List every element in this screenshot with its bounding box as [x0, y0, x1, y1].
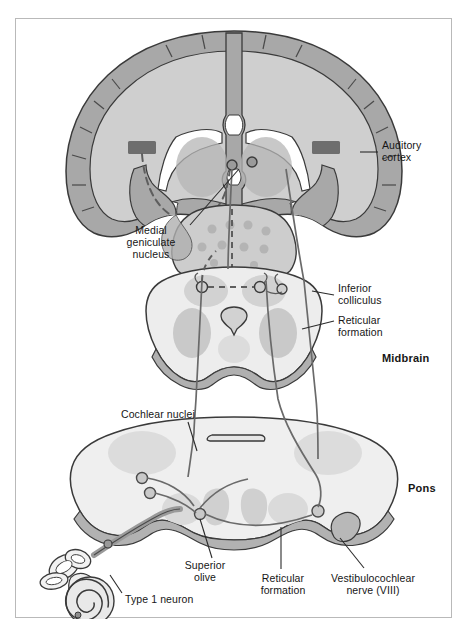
midbrain-section: [146, 251, 322, 390]
label-medial-geniculate-nucleus: Medial geniculate nucleus: [112, 224, 190, 261]
inner-ear: [39, 546, 114, 619]
auditory-cortex-patch-left: [128, 141, 156, 154]
cochlear-nuclei-right-shade: [294, 431, 362, 475]
label-cochlear-nuclei: Cochlear nuclei: [121, 408, 195, 420]
cochlear-nucleus-ventral-left: [145, 488, 156, 499]
medial-geniculate-right: [247, 157, 257, 167]
spiral-ganglion-cell: [104, 540, 112, 548]
label-superior-olive: Superior olive: [176, 559, 234, 583]
anatomy-diagram-canvas: [16, 19, 453, 619]
label-type-1-neuron: Type 1 neuron: [125, 593, 193, 605]
label-inferior-colliculus: Inferior colliculus: [338, 282, 382, 306]
figure-frame: Auditory cortex Medial geniculate nucleu…: [15, 18, 452, 618]
label-pons: Pons: [408, 482, 436, 494]
cochlear-nucleus-dorsal-left: [137, 473, 148, 484]
label-midbrain: Midbrain: [382, 352, 429, 364]
third-ventricle-upper: [225, 115, 243, 135]
superior-olive-right-shade: [268, 493, 308, 525]
basal-ganglia-right: [240, 137, 292, 197]
label-auditory-cortex: Auditory cortex: [382, 139, 421, 163]
label-vestibulocochlear-nerve: Vestibulocochlear nerve (VIII): [323, 572, 423, 596]
hair-cell-marker: [75, 612, 81, 618]
reticular-formation-right-shade: [259, 308, 297, 358]
midbrain-central-shade: [218, 335, 250, 363]
basal-ganglia-left: [176, 137, 228, 197]
auditory-cortex-patch-right: [312, 141, 340, 154]
fourth-ventricle: [207, 435, 265, 441]
label-reticular-formation-pons: Reticular formation: [255, 572, 311, 596]
superior-olive-left: [195, 509, 206, 520]
medial-geniculate-left: [227, 160, 237, 170]
label-reticular-formation-midbrain: Reticular formation: [338, 314, 383, 338]
cochlear-nuclei-left-shade: [108, 431, 176, 475]
reticular-formation-left-shade: [173, 308, 211, 358]
inferior-colliculus-right: [255, 282, 266, 293]
